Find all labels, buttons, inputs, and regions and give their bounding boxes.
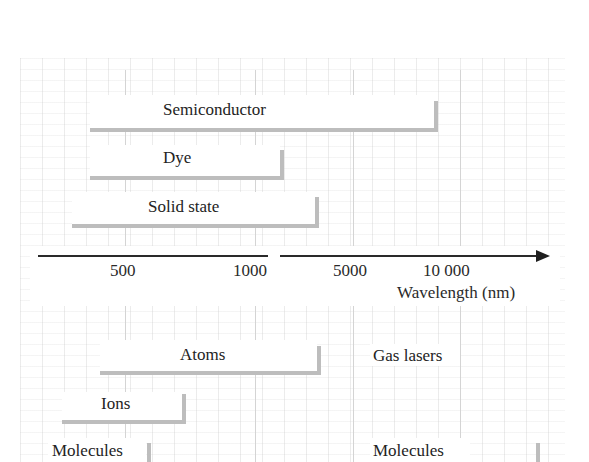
atoms-range-end: [317, 346, 321, 375]
semiconductor-range-end: [434, 101, 438, 132]
dye-label: Dye: [163, 148, 191, 168]
solid-state-range-end: [315, 197, 319, 228]
atoms-range-bar: [100, 371, 321, 375]
gas-lasers-header: Gas lasers: [373, 346, 442, 366]
ions-label: Ions: [101, 394, 130, 414]
ions-range-bar: [62, 420, 186, 424]
atoms-label: Atoms: [180, 345, 225, 365]
molecules-left-label: Molecules: [52, 441, 123, 461]
semiconductor-range-bar: [90, 128, 438, 132]
axis-line-right: [280, 255, 538, 257]
dye-range-bar: [90, 176, 284, 180]
molecules-left-range-end: [147, 443, 151, 462]
tick-10000: 10 000: [423, 261, 470, 281]
axis-label: Wavelength (nm): [397, 283, 515, 303]
tick-1000: 1000: [233, 261, 267, 281]
molecules-right-range-end: [536, 443, 540, 462]
semiconductor-label: Semiconductor: [163, 100, 266, 120]
tick-5000: 5000: [333, 261, 367, 281]
solid-state-range-bar: [72, 224, 319, 228]
molecules-right-label: Molecules: [373, 441, 444, 461]
tick-500: 500: [110, 261, 136, 281]
axis-line-left: [38, 255, 268, 257]
ions-range-end: [182, 394, 186, 424]
dye-range-end: [280, 150, 284, 180]
solid-state-label: Solid state: [148, 197, 219, 217]
axis-arrow-icon: [536, 250, 550, 262]
